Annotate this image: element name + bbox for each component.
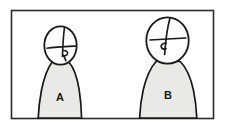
sketch-illustration: A B [0,0,226,135]
figure-a-label: A [56,91,64,103]
figure-b-label: B [164,89,172,101]
sketch-canvas: A B [0,0,226,135]
